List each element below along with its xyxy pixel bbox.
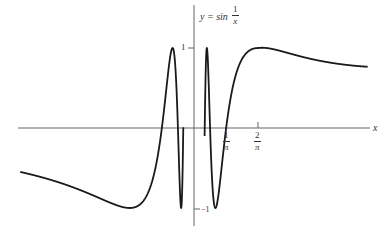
y-tick-label-neg: −1 [201, 206, 210, 214]
x-tick1-den: π [224, 142, 229, 152]
x-tick-label-1-over-pi: 1 π [223, 131, 230, 152]
title-numerator: 1 [232, 5, 239, 16]
x-axis-label: x [373, 123, 377, 133]
title-denominator: x [233, 16, 237, 26]
x-tick-label-2-over-pi: 2 π [254, 131, 261, 152]
title-fraction: 1 x [232, 5, 239, 26]
y-tick-label-pos: 1 [181, 43, 186, 52]
x-tick2-num: 2 [254, 131, 261, 142]
x-tick2-den: π [255, 142, 260, 152]
x-tick1-num: 1 [223, 131, 230, 142]
title-lhs: y = sin [200, 12, 228, 22]
function-plot [0, 0, 392, 242]
